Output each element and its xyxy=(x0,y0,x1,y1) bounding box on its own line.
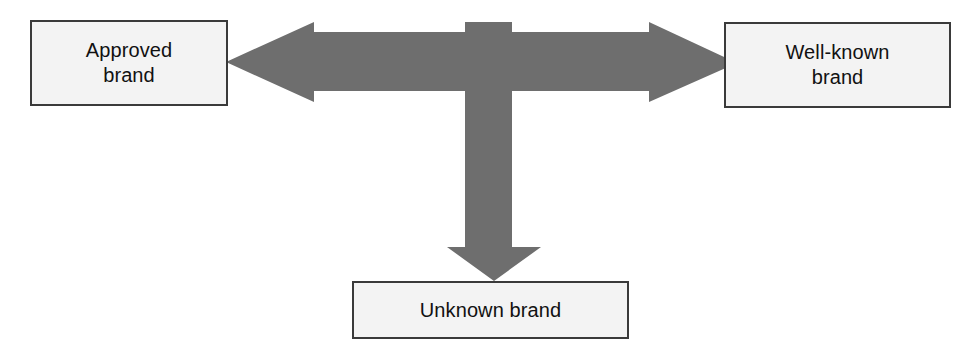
arrow-shape xyxy=(226,22,737,281)
node-well-known-brand[interactable]: Well-known brand xyxy=(724,22,951,108)
node-unknown-brand-label: Unknown brand xyxy=(414,298,567,323)
node-unknown-brand[interactable]: Unknown brand xyxy=(352,281,629,339)
node-approved-brand[interactable]: Approved brand xyxy=(30,20,228,106)
node-approved-brand-label: Approved brand xyxy=(80,38,178,88)
node-well-known-brand-label: Well-known brand xyxy=(780,40,896,90)
diagram-canvas: Approved brand Well-known brand Unknown … xyxy=(0,0,977,359)
